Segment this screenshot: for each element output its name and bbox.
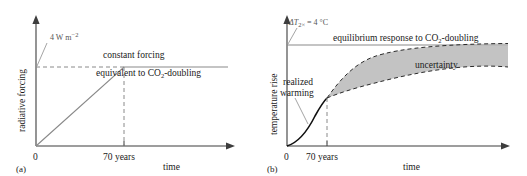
panel-a-plot: 4 W m−2 constant forcing equivalent to C… — [0, 0, 264, 176]
panel-a-xtick-label-0: 0 — [33, 152, 38, 162]
panel-a-x-axis-label: time — [163, 162, 180, 172]
panel-a-x-axis — [36, 142, 235, 149]
panel-a-y-axis — [32, 15, 39, 146]
panel-a-forcing-curve — [36, 67, 228, 146]
panel-b-x-axis — [287, 142, 510, 149]
panel-b-realized-warming-label-line1: realized — [283, 77, 313, 87]
panel-a-radiative-forcing: 4 W m−2 constant forcing equivalent to C… — [0, 0, 264, 176]
panel-a-plateau-label-line1: constant forcing — [103, 50, 165, 60]
panel-a-forcing-leader — [37, 43, 47, 66]
panel-b-y-axis-label: temperature rise — [269, 74, 279, 135]
panel-b-temperature-response: ΔT2× = 4 °C equilibrium response to CO2-… — [263, 0, 527, 176]
panel-b-xtick-label-70: 70 years — [306, 152, 338, 162]
panel-b-sensitivity-label: ΔT2× = 4 °C — [288, 18, 328, 28]
panel-b-realized-warming-leader — [295, 98, 308, 124]
climate-forcing-response-figure: 4 W m−2 constant forcing equivalent to C… — [0, 0, 527, 176]
panel-b-realized-warming-label-line2: warming — [280, 88, 314, 98]
panel-b-uncertainty-label: uncertainty — [415, 60, 458, 70]
panel-a-y-axis-label: radiative forcing — [17, 69, 27, 132]
panel-b-equilibrium-label: equilibrium response to CO2-doubling — [333, 33, 479, 44]
panel-b-plot: ΔT2× = 4 °C equilibrium response to CO2-… — [263, 0, 527, 176]
panel-a-plateau-label-line2: equivalent to CO2-doubling — [96, 68, 201, 79]
panel-a-forcing-value: 4 W m−2 — [50, 31, 78, 42]
panel-a-caption: (a) — [16, 164, 26, 174]
panel-b-sensitivity-leader — [288, 28, 297, 44]
panel-a-xtick-label-70: 70 years — [103, 152, 135, 162]
panel-b-caption: (b) — [267, 164, 278, 174]
panel-b-uncertainty-band — [327, 44, 508, 99]
panel-b-xtick-label-0: 0 — [284, 152, 289, 162]
panel-b-x-axis-label: time — [403, 162, 420, 172]
